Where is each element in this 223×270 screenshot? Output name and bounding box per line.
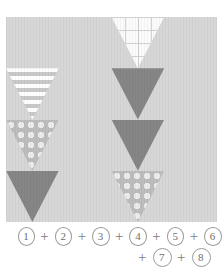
- caption: 1+2+3+4+5+6 +7+8: [0, 226, 223, 268]
- triangle-tile: [112, 171, 165, 222]
- plus-operator: +: [40, 226, 49, 247]
- triangle-tile: [6, 68, 59, 119]
- triangle-tile: [164, 17, 217, 68]
- circled-number-2: 2: [55, 227, 72, 246]
- plus-operator: +: [78, 226, 87, 247]
- triangle-pattern: [6, 17, 217, 222]
- triangle-tile: [164, 120, 217, 171]
- triangle-tile: [59, 171, 112, 222]
- plus-operator: +: [115, 226, 124, 247]
- circled-number-6: 6: [204, 227, 221, 246]
- triangle-tile: [59, 120, 112, 171]
- plus-operator: +: [138, 247, 147, 268]
- circled-number-8: 8: [192, 248, 211, 267]
- triangle-tile: [164, 68, 217, 119]
- triangle-tile: [59, 68, 112, 119]
- circled-number-7: 7: [153, 248, 172, 267]
- plus-operator: +: [190, 226, 199, 247]
- circled-number-4: 4: [129, 227, 146, 246]
- circled-number-1: 1: [18, 227, 35, 246]
- circled-number-5: 5: [167, 227, 184, 246]
- triangle-tile: [6, 171, 59, 222]
- triangle-tile: [6, 120, 59, 171]
- circled-number-3: 3: [92, 227, 109, 246]
- triangle-tile: [164, 171, 217, 222]
- caption-line-2: +7+8: [0, 247, 223, 268]
- figure-container: 1+2+3+4+5+6 +7+8: [0, 0, 223, 270]
- triangle-tile: [112, 17, 165, 68]
- caption-line-1: 1+2+3+4+5+6: [0, 226, 223, 247]
- triangle-tile: [112, 68, 165, 119]
- triangle-tile: [59, 17, 112, 68]
- plus-operator: +: [177, 247, 186, 268]
- plus-operator: +: [152, 226, 161, 247]
- triangle-tile: [112, 120, 165, 171]
